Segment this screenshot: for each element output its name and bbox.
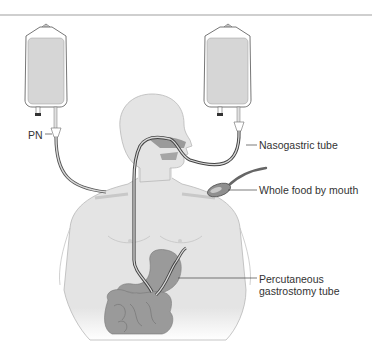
pn-iv-bag xyxy=(25,24,67,129)
label-whole-food-by-mouth: Whole food by mouth xyxy=(259,184,358,196)
label-nasogastric-tube: Nasogastric tube xyxy=(259,139,338,151)
nutrition-routes-illustration xyxy=(0,0,372,359)
label-pn: PN xyxy=(28,129,43,141)
spoon-icon xyxy=(206,168,266,199)
pn-line xyxy=(45,128,106,192)
enteral-feed-bag xyxy=(204,24,251,131)
label-peg-line2: gastrostomy tube xyxy=(259,285,340,297)
label-percutaneous-gastrostomy-tube: Percutaneous gastrostomy tube xyxy=(259,273,340,297)
label-peg-line1: Percutaneous xyxy=(259,273,340,285)
